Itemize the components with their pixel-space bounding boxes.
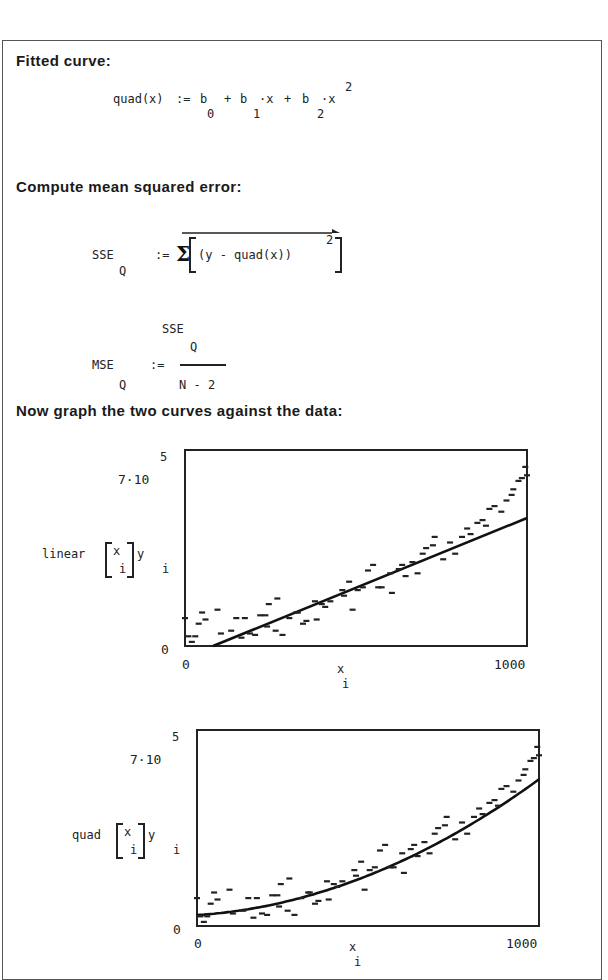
plot-area-quadratic xyxy=(197,730,539,926)
data-point xyxy=(300,623,306,625)
data-point xyxy=(264,914,270,916)
data-point xyxy=(339,589,345,591)
data-point xyxy=(365,569,371,571)
data-point xyxy=(421,841,427,843)
data-point xyxy=(459,821,465,823)
data-point xyxy=(339,880,345,882)
data-point xyxy=(534,746,540,748)
y-label-x: x xyxy=(113,544,120,558)
data-point xyxy=(495,805,501,807)
data-point xyxy=(274,894,280,896)
data-point xyxy=(286,877,292,879)
x-min-label: 0 xyxy=(194,936,202,951)
data-point xyxy=(370,564,376,566)
data-point xyxy=(389,592,395,594)
fraction-bar xyxy=(180,364,226,366)
heading-compute-mse: Compute mean squared error: xyxy=(16,178,242,195)
y-label-y: y xyxy=(137,547,144,561)
data-point xyxy=(420,553,426,555)
x-max-label: 1000 xyxy=(494,657,525,672)
data-point xyxy=(498,788,504,790)
data-point xyxy=(204,915,210,917)
y-label-y: y xyxy=(148,828,155,842)
data-point xyxy=(411,844,417,846)
data-point xyxy=(486,802,492,804)
data-point xyxy=(379,586,385,588)
data-point xyxy=(440,558,446,560)
subscript-1: 1 xyxy=(253,107,260,121)
y-axis-label-func: quad xyxy=(72,828,101,842)
data-point xyxy=(510,791,516,793)
data-point xyxy=(480,519,486,521)
data-point xyxy=(362,889,368,891)
data-point xyxy=(230,912,236,914)
formula-sse-body: (y - quad(x)) xyxy=(198,248,292,262)
right-bracket-icon xyxy=(333,237,343,273)
data-point xyxy=(515,480,521,482)
data-point xyxy=(189,641,195,643)
y-axis-label-func: linear xyxy=(42,547,85,561)
data-point xyxy=(372,866,378,868)
data-point xyxy=(377,849,383,851)
data-point xyxy=(536,754,542,756)
vectorize-arrow-icon xyxy=(182,228,342,238)
data-point xyxy=(423,547,429,549)
times-x: ·x xyxy=(321,92,335,106)
x-axis-label: x xyxy=(349,940,356,954)
x-max-label: 1000 xyxy=(506,936,537,951)
formula-quad-b1: b xyxy=(240,92,247,106)
data-point xyxy=(519,477,525,479)
plot-frame xyxy=(197,730,539,926)
data-point xyxy=(273,630,279,632)
data-point xyxy=(240,910,246,912)
data-point xyxy=(327,600,333,602)
data-point xyxy=(346,581,352,583)
data-point xyxy=(399,564,405,566)
data-point xyxy=(331,883,337,885)
data-point xyxy=(399,852,405,854)
data-point xyxy=(218,632,224,634)
data-point xyxy=(242,617,248,619)
data-point xyxy=(353,875,359,877)
data-point xyxy=(199,611,205,613)
formula-sse-lhs: SSE xyxy=(92,248,114,262)
data-point xyxy=(504,785,510,787)
y-top-exponent: 5 xyxy=(160,450,167,464)
data-point xyxy=(483,525,489,527)
data-point xyxy=(295,611,301,613)
x-min-label: 0 xyxy=(182,657,190,672)
data-point xyxy=(247,632,253,634)
data-point xyxy=(452,553,458,555)
mse-numerator: SSE xyxy=(162,322,184,336)
formula-mse-assign: := xyxy=(150,358,164,372)
times-x: ·x xyxy=(259,92,273,106)
data-point xyxy=(226,889,232,891)
data-point xyxy=(350,609,356,611)
formula-quad-assign: := xyxy=(176,92,190,106)
data-point xyxy=(408,848,414,850)
data-point xyxy=(503,499,509,501)
x-axis-label-sub: i xyxy=(354,955,361,969)
plus-sign: + xyxy=(284,92,291,106)
data-point xyxy=(492,505,498,507)
data-point xyxy=(442,824,448,826)
right-bracket-icon xyxy=(125,542,135,578)
data-point xyxy=(510,488,516,490)
x-axis-label-sub: i xyxy=(342,677,349,691)
data-point xyxy=(238,637,244,639)
data-point xyxy=(471,816,477,818)
data-point xyxy=(250,917,256,919)
data-point xyxy=(382,844,388,846)
data-point xyxy=(233,617,239,619)
data-point xyxy=(427,852,433,854)
data-point xyxy=(185,635,191,637)
y-min-label: 0 xyxy=(161,642,169,657)
data-point xyxy=(303,620,309,622)
data-point xyxy=(324,880,330,882)
y-max-label: 7·10 xyxy=(130,752,161,767)
left-bracket-icon xyxy=(188,237,198,273)
data-point xyxy=(498,511,504,513)
subscript-q: Q xyxy=(119,264,126,278)
data-point xyxy=(367,869,373,871)
data-point xyxy=(298,897,304,899)
